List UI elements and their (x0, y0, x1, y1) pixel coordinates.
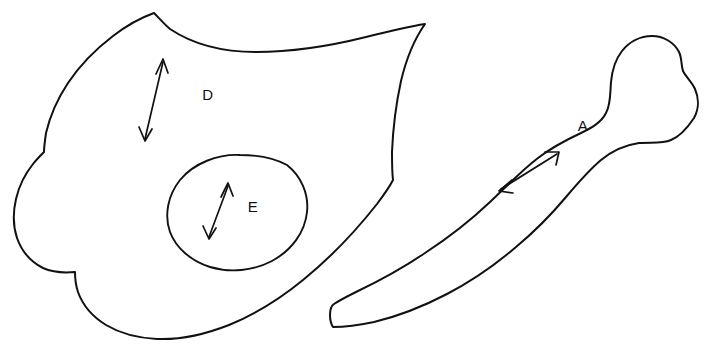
diagram-svg: D E A (0, 0, 704, 353)
diagram-canvas: D E A (0, 0, 704, 353)
shape-label-a: A (578, 117, 589, 134)
shape-label-d: D (202, 86, 213, 103)
shape-label-e: E (248, 198, 259, 215)
